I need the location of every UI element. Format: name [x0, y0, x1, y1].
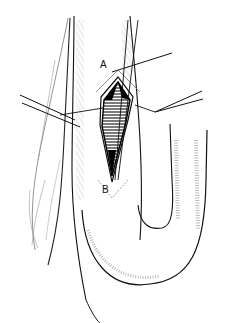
left-tissue	[29, 18, 70, 265]
bowel-u-loop	[82, 124, 207, 323]
label-b: B	[102, 184, 109, 195]
label-a: A	[100, 59, 107, 70]
surgical-illustration: A B	[0, 0, 229, 323]
